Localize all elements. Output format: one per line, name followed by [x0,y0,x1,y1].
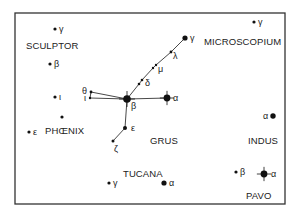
star-label: ε [131,123,135,133]
star-phe-unnamed [60,115,63,118]
star-tuc-gamma [107,181,110,184]
star-chart: γβιεγγλμδθιβαεζαγαβα SCULPTORMICROSCOPIU… [0,0,297,215]
star-label: γ [113,178,118,188]
constellation-name: GRUS [150,135,178,146]
constellation-name: SCULPTOR [26,40,78,51]
star-label: γ [59,24,64,34]
constellation-name: TUCANA [123,168,163,179]
star-phe-epsilon [27,130,30,133]
star-gru-delta2 [138,83,141,86]
constellation-name: INDUS [248,135,278,146]
star-label: ι [59,92,61,102]
star-gru-theta [90,91,93,94]
star-label: α [173,93,178,103]
star-scl-gamma [53,27,56,30]
star-label: δ [145,78,150,88]
star-scl-iota [53,95,56,98]
star-gru-lambda [170,51,173,54]
constellation-lines [90,38,185,141]
star-label: γ [258,17,263,27]
star-label: α [169,178,174,188]
constellation-line [171,38,185,52]
star-gru-delta1 [141,79,144,82]
star-pav-beta [234,170,237,173]
star-gru-mu2 [152,67,154,69]
star-mic-gamma [252,20,255,23]
star-label: ε [33,127,37,137]
star-ind-alpha [270,113,275,118]
star-label: ι [84,93,86,103]
constellation-name: MICROSCOPIUM [204,36,281,47]
star-label: μ [158,64,163,74]
star-label: β [240,167,245,177]
star-gru-iota [89,97,91,99]
star-label: α [263,111,268,121]
star-label: β [54,59,59,69]
star-gru-zeta [112,140,115,143]
star-label: α [271,169,276,179]
star-gru-mu1 [155,64,157,66]
star-gru-gamma [182,35,187,40]
constellation-name: PHŒNIX [45,125,85,136]
star-label: β [131,101,136,111]
constellation-name: PAVO [246,190,271,201]
star-label: ζ [114,144,118,154]
star-tuc-alpha [161,180,166,185]
star-gru-epsilon [123,126,127,130]
star-label: γ [190,33,195,43]
constellation-line [113,128,125,141]
star-scl-beta [48,62,51,65]
star-label: λ [173,51,178,61]
